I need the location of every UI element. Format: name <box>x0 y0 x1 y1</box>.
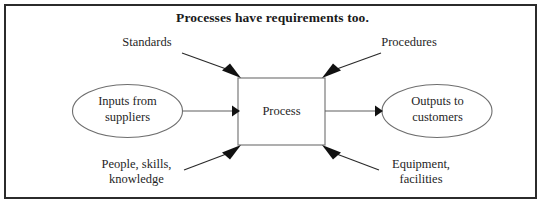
annotation-people-line-1: People, skills, <box>86 157 187 172</box>
node-output-label-line-2: customers <box>372 109 503 125</box>
annotation-standards-line-1: Standards <box>106 35 188 50</box>
arrowhead-equipment <box>322 145 341 160</box>
diagram-canvas: Processes have requirements too. Inputs … <box>0 0 545 209</box>
node-input-label-line-2: suppliers <box>62 109 193 125</box>
node-output-label-line-1: Outputs to <box>372 93 503 109</box>
annotation-people-line-2: knowledge <box>86 172 187 187</box>
node-process-label-line-1: Process <box>238 104 325 119</box>
arrowhead-standards <box>222 64 241 79</box>
annotation-procedures-line-1: Procedures <box>366 35 452 50</box>
arrowhead-procedures <box>322 64 341 79</box>
arrowhead-people <box>222 145 241 160</box>
annotation-equipment-line-1: Equipment, <box>373 157 469 172</box>
annotation-people-label: People, skills, knowledge <box>86 157 187 187</box>
node-process-label: Process <box>238 104 325 119</box>
annotation-equipment-line-2: facilities <box>373 172 469 187</box>
annotation-equipment-label: Equipment, facilities <box>373 157 469 187</box>
node-input-label-line-1: Inputs from <box>62 93 193 109</box>
node-input-label: Inputs from suppliers <box>62 93 193 125</box>
connector-procedures-to-process <box>334 53 381 70</box>
annotation-procedures-label: Procedures <box>366 35 452 50</box>
annotation-standards-label: Standards <box>106 35 188 50</box>
node-output-label: Outputs to customers <box>372 93 503 125</box>
connector-people-to-process <box>184 153 229 170</box>
connector-standards-to-process <box>182 53 229 70</box>
